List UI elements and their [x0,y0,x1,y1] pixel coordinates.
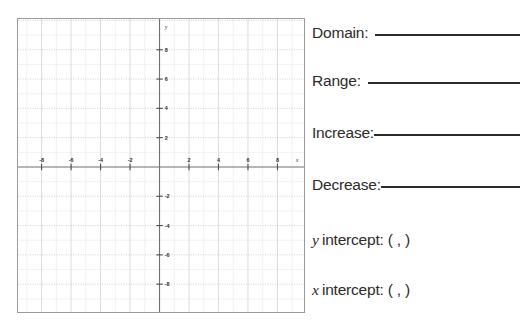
prompt-y-intercept: y intercept: ( , ) [312,231,520,249]
svg-text:-2: -2 [128,157,133,163]
svg-text:-4: -4 [98,157,103,163]
coordinate-graph-panel: -8-6-4-224688642-2-4-6-8xy [17,18,305,313]
prompt-list: Domain: Range: Increase: Decrease: y int… [312,0,523,323]
svg-text:4: 4 [217,157,220,163]
prompt-x-intercept: x intercept: ( , ) [312,281,520,299]
decrease-answer-line[interactable] [381,186,520,188]
prompt-range: Range: [312,72,520,90]
domain-answer-line[interactable] [375,34,520,36]
prompt-decrease-label: Decrease: [312,176,381,194]
svg-text:2: 2 [188,157,191,163]
svg-text:-2: -2 [165,193,170,199]
x-intercept-label: intercept: ( , ) [322,281,410,299]
svg-text:y: y [164,24,168,30]
y-intercept-label: intercept: ( , ) [322,231,410,249]
svg-text:-8: -8 [165,281,170,287]
prompt-increase-label: Increase: [312,124,374,142]
x-intercept-variable: x [312,281,322,299]
svg-text:-6: -6 [69,157,74,163]
range-answer-line[interactable] [368,82,520,84]
svg-text:6: 6 [246,157,249,163]
coordinate-grid: -8-6-4-224688642-2-4-6-8xy [18,19,304,312]
prompt-range-label: Range: [312,72,361,90]
svg-text:-6: -6 [165,252,170,258]
svg-text:-4: -4 [165,223,170,229]
svg-text:4: 4 [165,105,168,111]
prompt-increase: Increase: [312,124,520,142]
svg-text:x: x [295,157,299,163]
prompt-domain-label: Domain: [312,24,368,42]
svg-text:2: 2 [165,135,168,141]
svg-text:-8: -8 [39,157,44,163]
svg-text:8: 8 [165,47,168,53]
prompt-decrease: Decrease: [312,176,520,194]
worksheet: -8-6-4-224688642-2-4-6-8xy Domain: Range… [0,0,523,323]
svg-text:8: 8 [276,157,279,163]
prompt-domain: Domain: [312,24,520,42]
increase-answer-line[interactable] [374,134,520,136]
svg-text:6: 6 [165,76,168,82]
y-intercept-variable: y [312,231,322,249]
